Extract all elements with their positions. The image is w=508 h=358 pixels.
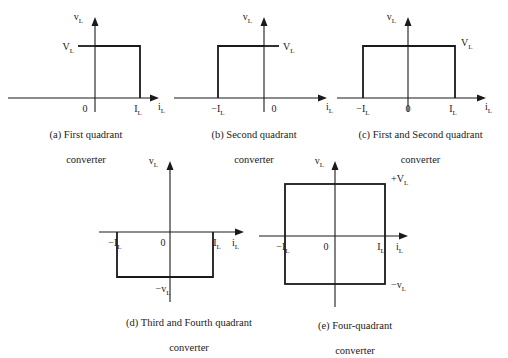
panel-first-quadrant: vL iL VL 0 IL (a) First quadrant convert… <box>0 4 172 144</box>
x-axis-label: iL <box>232 237 239 251</box>
y-axis-label: vL <box>387 11 396 25</box>
panel-second-quadrant: vL iL VL 0 −IL (b) Second quadrant conve… <box>168 4 340 144</box>
origin-label: 0 <box>83 103 88 114</box>
y-axis-label: vL <box>74 11 83 25</box>
current-level-negative-label: −IL <box>356 103 369 116</box>
y-axis-label: vL <box>315 155 324 169</box>
voltage-level-negative-label: −vL <box>391 279 406 293</box>
origin-label: 0 <box>272 103 277 114</box>
caption-line-1: (a) First quadrant <box>6 129 166 142</box>
current-level-label: IL <box>134 103 142 116</box>
voltage-level-positive-label: +VL <box>391 173 408 187</box>
current-level-label: IL <box>213 237 221 251</box>
plot-second-quadrant: vL iL VL 0 −IL <box>168 4 340 116</box>
y-axis-arrow-icon <box>261 17 268 26</box>
x-axis-label: iL <box>158 101 165 115</box>
operating-region-second-quadrant <box>218 46 264 98</box>
x-axis-label: iL <box>326 101 333 115</box>
operating-region-first-second-quadrant <box>363 46 455 98</box>
panel-four-quadrant: vL iL +VL −vL 0 IL −IL (e) Four-quadrant… <box>255 152 470 347</box>
plot-first-and-second-quadrant: vL iL VL 0 IL −IL <box>333 4 508 116</box>
voltage-level-label: VL <box>62 41 74 55</box>
x-axis-arrow-icon <box>399 233 408 240</box>
origin-label: 0 <box>324 241 329 252</box>
current-level-negative-label: −IL <box>108 237 121 251</box>
caption-four-quadrant: (e) Four-quadrant converter <box>265 307 445 358</box>
y-axis-arrow-icon <box>167 161 174 170</box>
plot-first-quadrant: vL iL VL 0 IL <box>0 4 172 116</box>
current-level-negative-label: −IL <box>276 241 289 255</box>
current-level-label: IL <box>449 103 457 116</box>
voltage-level-label: VL <box>461 37 473 51</box>
y-axis-arrow-icon <box>332 161 339 170</box>
operating-region-first-quadrant <box>95 46 140 98</box>
y-axis-label: vL <box>243 11 252 25</box>
caption-line-1: (b) Second quadrant <box>174 129 334 142</box>
caption-line-1: (c) First and Second quadrant <box>333 129 508 142</box>
x-axis-label: iL <box>396 241 403 255</box>
y-axis-label: vL <box>149 155 158 169</box>
caption-line-1: (e) Four-quadrant <box>265 320 445 333</box>
plot-four-quadrant: vL iL +VL −vL 0 IL −IL <box>255 152 470 310</box>
x-axis-label: iL <box>485 101 492 115</box>
x-axis-arrow-icon <box>235 229 244 236</box>
panel-first-and-second-quadrant: vL iL VL 0 IL −IL (c) First and Second q… <box>333 4 508 144</box>
current-level-label: IL <box>377 241 385 255</box>
caption-line-2: converter <box>265 345 445 358</box>
origin-label: 0 <box>161 237 166 248</box>
y-axis-arrow-icon <box>405 17 412 26</box>
origin-label: 0 <box>406 103 411 114</box>
voltage-level-label: VL <box>283 41 295 55</box>
voltage-level-negative-label: −vL <box>156 283 171 297</box>
current-level-negative-label: −IL <box>211 103 224 116</box>
y-axis-arrow-icon <box>92 17 99 26</box>
